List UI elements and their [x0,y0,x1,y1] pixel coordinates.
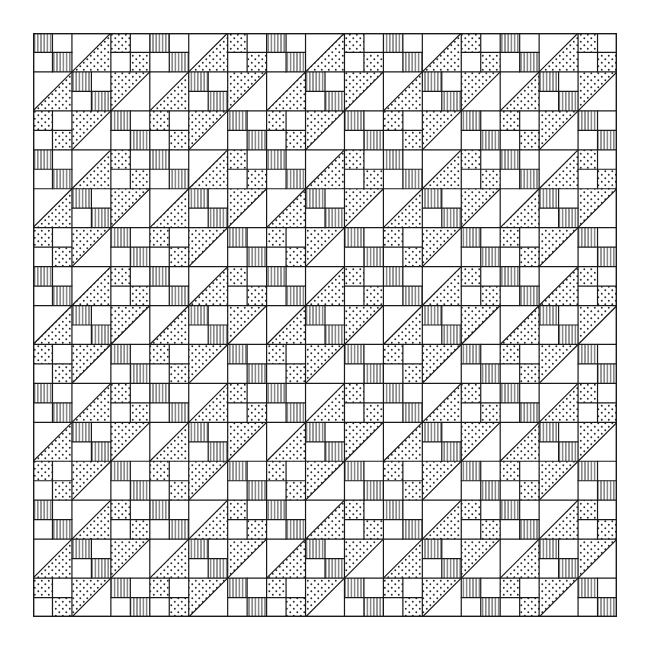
quilt-pattern [33,33,617,617]
quilt-grid [33,33,617,617]
